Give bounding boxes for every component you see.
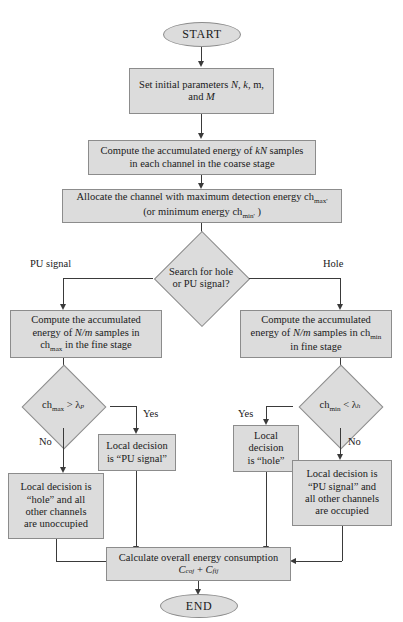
- line-2: is “PU signal”: [107, 453, 167, 464]
- edge-label-no-right: No: [348, 436, 361, 447]
- line-2: decision: [249, 442, 284, 453]
- node-local-decision-hole-all-text: Local decision is “hole” and all other c…: [20, 481, 91, 531]
- node-local-decision-pu-all-text: Local decision is “PU signal” and all ot…: [305, 468, 379, 518]
- node-decision-chmax-label: chmax > λp: [13, 384, 113, 428]
- node-calculate-overall-energy: Calculate overall energy consumption Cco…: [106, 547, 291, 581]
- edge-search-right-horizontal: [249, 278, 341, 279]
- line-4: are occupied: [315, 505, 368, 516]
- node-search-decision: Search for hole or PU signal?: [146, 251, 256, 305]
- arrowhead-coarse: [198, 133, 204, 139]
- line-1: Compute the accumulated: [261, 314, 371, 325]
- line-2: energy of N/m samples in: [32, 327, 139, 338]
- flowchart-canvas: START Set initial parameters N, k, m, an…: [0, 0, 403, 622]
- edge-label-pu-signal: PU signal: [30, 258, 71, 269]
- edge-holeall-to-calc-horizontal: [56, 561, 107, 562]
- node-set-initial-parameters-text: Set initial parameters N, k, m, and M: [139, 79, 264, 104]
- edge-label-yes-right: Yes: [238, 408, 253, 419]
- line-2: “PU signal” and: [308, 481, 376, 492]
- line-4: are unoccupied: [24, 518, 88, 529]
- node-local-decision-hole-text: Local decision is “hole”: [247, 430, 284, 467]
- node-decision-chmin-label: chmin < λh: [290, 384, 390, 428]
- edge-label-yes-left: Yes: [143, 408, 158, 419]
- edge-label-no-left: No: [39, 436, 52, 447]
- line-3: other channels: [26, 506, 87, 517]
- line-2: energy of N/m samples in chmin: [251, 327, 382, 338]
- condition-text: chmin < λh: [320, 399, 361, 414]
- edge-decisionright-no-vertical: [340, 428, 341, 455]
- node-decision-chmin: chmin < λh: [290, 384, 390, 428]
- line-1: Local: [254, 430, 278, 441]
- line-1: Allocate the channel with maximum detect…: [77, 191, 328, 202]
- node-compute-fine-left-text: Compute the accumulated energy of N/m sa…: [31, 314, 141, 353]
- line-1: Compute the accumulated: [31, 314, 141, 325]
- node-compute-fine-left: Compute the accumulated energy of N/m sa…: [10, 310, 162, 358]
- node-local-decision-hole-all-unoccupied: Local decision is “hole” and all other c…: [8, 473, 104, 539]
- line-2: “hole” and all: [27, 494, 85, 505]
- node-start-label: START: [182, 27, 221, 41]
- arrowhead-setparams: [198, 61, 204, 67]
- node-local-decision-pu-signal: Local decision is “PU signal”: [98, 434, 176, 471]
- line-2: in each channel in the coarse stage: [129, 158, 274, 169]
- node-decision-chmax: chmax > λp: [13, 384, 113, 428]
- line-2: (or minimum energy chmin' ): [143, 206, 261, 217]
- edge-decisionleft-no-vertical: [63, 428, 64, 468]
- edge-decisionright-yes-horizontal: [266, 406, 293, 407]
- edge-holeall-to-calc-vertical: [56, 539, 57, 561]
- node-allocate-channel-text: Allocate the channel with maximum detect…: [77, 191, 328, 220]
- line-1: Local decision: [106, 440, 168, 451]
- node-end: END: [160, 594, 238, 618]
- formula: Ccoj + Cfij: [179, 564, 219, 575]
- edge-label-hole: Hole: [323, 258, 343, 269]
- edge-puall-to-calc-vertical: [342, 526, 343, 561]
- line-2: or PU signal?: [172, 278, 229, 289]
- node-compute-coarse-energy-text: Compute the accumulated energy of kN sam…: [101, 145, 304, 170]
- node-compute-fine-right: Compute the accumulated energy of N/m sa…: [240, 310, 392, 358]
- node-allocate-channel: Allocate the channel with maximum detect…: [62, 189, 342, 223]
- edge-decisionright-yes-vertical: [266, 406, 267, 420]
- node-set-initial-parameters: Set initial parameters N, k, m, and M: [129, 68, 274, 114]
- edge-search-right-vertical: [340, 278, 341, 305]
- node-compute-fine-right-text: Compute the accumulated energy of N/m sa…: [251, 314, 382, 353]
- edge-decisionleft-yes-horizontal: [110, 406, 137, 407]
- edge-decisionleft-yes-vertical: [136, 406, 137, 429]
- line-1: Calculate overall energy consumption: [119, 552, 278, 563]
- node-start: START: [163, 22, 241, 47]
- edge-puall-to-calc-horizontal: [296, 561, 342, 562]
- line-3: all other channels: [305, 493, 379, 504]
- node-compute-coarse-energy: Compute the accumulated energy of kN sam…: [88, 140, 316, 175]
- line-1: Search for hole: [169, 266, 233, 277]
- edge-setparams-to-coarse: [201, 114, 202, 134]
- line-2: and M: [188, 91, 215, 102]
- edge-search-left-horizontal: [63, 278, 153, 279]
- node-search-decision-label: Search for hole or PU signal?: [146, 251, 256, 305]
- edge-search-left-vertical: [63, 278, 64, 305]
- line-1: Local decision is: [20, 481, 91, 492]
- line-1: Local decision is: [306, 468, 377, 479]
- edge-localhole-to-calc: [266, 472, 267, 547]
- node-local-decision-pu-signal-text: Local decision is “PU signal”: [106, 440, 168, 465]
- node-calculate-overall-energy-text: Calculate overall energy consumption Cco…: [119, 552, 278, 577]
- line-3: chmax in the fine stage: [40, 339, 132, 350]
- condition-text: chmax > λp: [42, 399, 84, 414]
- edge-localpusignal-to-calc: [136, 471, 137, 547]
- line-3: is “hole”: [247, 455, 284, 466]
- line-1: Set initial parameters N, k, m,: [139, 79, 264, 90]
- node-local-decision-hole: Local decision is “hole”: [233, 425, 299, 472]
- node-end-label: END: [186, 599, 212, 613]
- line-1: Compute the accumulated energy of kN sam…: [101, 145, 304, 156]
- edge-start-to-setparams: [201, 47, 202, 62]
- node-local-decision-pu-all-occupied: Local decision is “PU signal” and all ot…: [292, 460, 392, 526]
- line-3: in fine stage: [290, 341, 341, 352]
